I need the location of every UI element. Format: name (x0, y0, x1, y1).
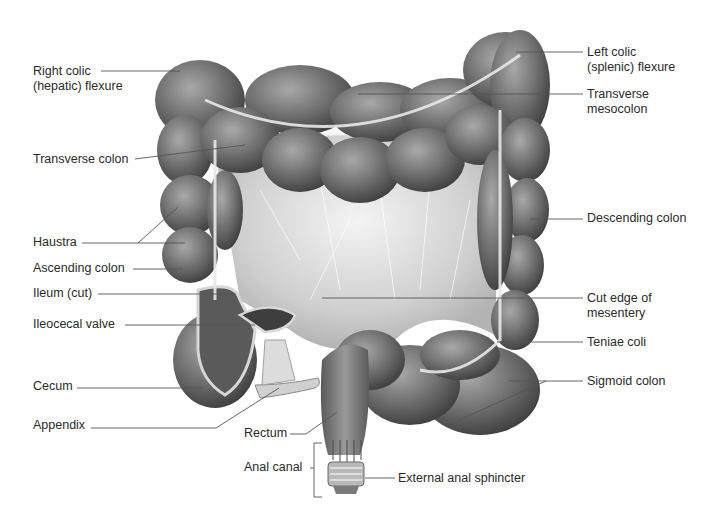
label-external-anal-sphincter: External anal sphincter (398, 471, 525, 486)
label-haustra: Haustra (33, 235, 77, 250)
label-transverse-mesocolon: Transversemesocolon (587, 87, 649, 117)
label-appendix: Appendix (33, 418, 85, 433)
leader-anal-canal (314, 443, 322, 497)
label-transverse-colon: Transverse colon (33, 152, 128, 167)
label-ileocecal-valve: Ileocecal valve (33, 317, 115, 332)
label-ascending-colon: Ascending colon (33, 261, 125, 276)
label-cecum: Cecum (33, 379, 73, 394)
leader-appendix (91, 388, 279, 428)
label-teniae-coli: Teniae coli (587, 335, 646, 350)
label-left-colic-flexure: Left colic(splenic) flexure (587, 45, 675, 75)
label-ileum-cut: Ileum (cut) (33, 286, 92, 301)
label-right-colic-flexure: Right colic(hepatic) flexure (33, 64, 123, 94)
label-anal-canal: Anal canal (244, 460, 302, 475)
rectum-shape (321, 344, 369, 494)
label-cut-edge-of-mesentery: Cut edge ofmesentery (587, 291, 652, 321)
label-rectum: Rectum (244, 426, 287, 441)
label-sigmoid-colon: Sigmoid colon (587, 374, 666, 389)
label-descending-colon: Descending colon (587, 211, 686, 226)
